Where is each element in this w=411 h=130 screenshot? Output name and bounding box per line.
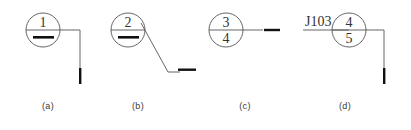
panel-a-top-label: 1 (40, 15, 47, 30)
panel-b-bottom-dash (118, 36, 139, 39)
panel-d: J103 4 5 (303, 13, 385, 84)
panel-b: 2 (111, 13, 196, 72)
panel-a-terminal-tick (79, 68, 81, 84)
panel-a: 1 (26, 13, 81, 84)
panel-c-bottom-label: 4 (223, 31, 230, 46)
panel-b-top-label: 2 (125, 15, 132, 30)
panel-d-tag-label: J103 (305, 14, 331, 29)
panel-a-bottom-dash (33, 36, 54, 39)
panel-d-bottom-label: 5 (346, 31, 353, 46)
panel-c: 3 4 (209, 13, 280, 47)
figure-root: 1 2 3 4 J103 (0, 0, 411, 130)
panel-d-terminal-tick (383, 68, 385, 84)
panel-caption-b: (b) (118, 101, 158, 111)
panel-d-top-label: 4 (346, 15, 353, 30)
panel-c-terminal-dash (264, 29, 280, 31)
panel-b-terminal-dash (178, 69, 196, 71)
panel-caption-d: (d) (325, 101, 365, 111)
panel-c-top-label: 3 (223, 15, 230, 30)
panel-caption-c: (c) (225, 101, 265, 111)
panel-caption-a: (a) (28, 101, 68, 111)
